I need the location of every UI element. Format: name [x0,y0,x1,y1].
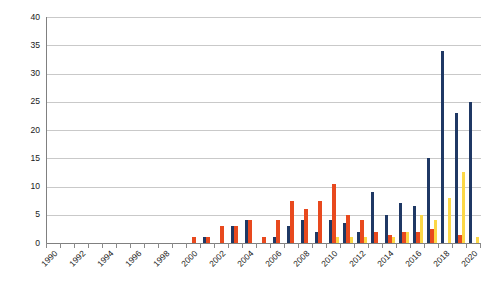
x-tick-label: 1998 [138,249,171,282]
x-tick-label: 2002 [194,249,227,282]
x-tick-label: 1994 [82,249,115,282]
x-tick-label: 1990 [26,249,59,282]
x-tick-label: 2016 [390,249,423,282]
x-tick-label: 2008 [278,249,311,282]
x-tick-label: 1992 [54,249,87,282]
bar-chart: 0510152025303540 19901992199419961998200… [0,0,493,292]
x-tick-label: 1996 [110,249,143,282]
x-tick-label: 2006 [250,249,283,282]
x-tick-label: 2010 [306,249,339,282]
x-axis-labels: 1990199219941996199820002002200420062008… [0,0,493,292]
x-tick-label: 2014 [362,249,395,282]
x-tick-label: 2012 [334,249,367,282]
x-tick-label: 2018 [418,249,451,282]
x-tick-label: 2000 [166,249,199,282]
x-tick-label: 2020 [446,249,479,282]
x-tick-label: 2004 [222,249,255,282]
